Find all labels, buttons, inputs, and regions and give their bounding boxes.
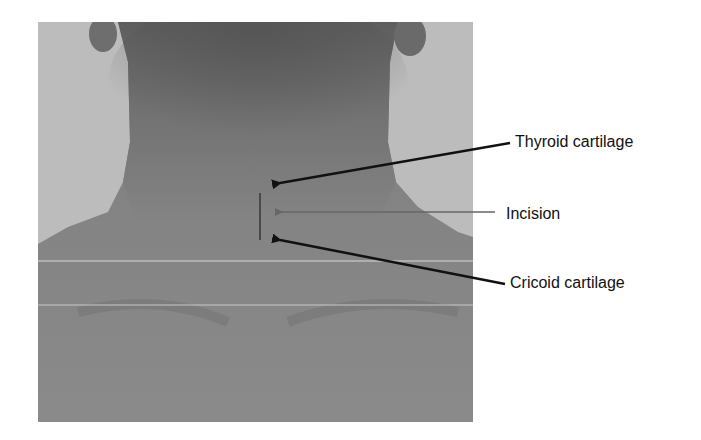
- label-incision: Incision: [506, 205, 560, 223]
- label-thyroid-cartilage: Thyroid cartilage: [515, 133, 633, 151]
- thyroid-arrow: [280, 143, 510, 183]
- cricoid-arrow: [280, 240, 505, 284]
- label-cricoid-cartilage: Cricoid cartilage: [510, 274, 625, 292]
- annotation-arrows: [0, 0, 701, 440]
